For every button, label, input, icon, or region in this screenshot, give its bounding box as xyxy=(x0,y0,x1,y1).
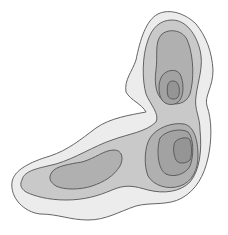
contour-plot xyxy=(0,0,228,235)
contour-level-5-lower-peak xyxy=(174,138,192,163)
contour-level-5-upper-peak xyxy=(167,81,179,99)
